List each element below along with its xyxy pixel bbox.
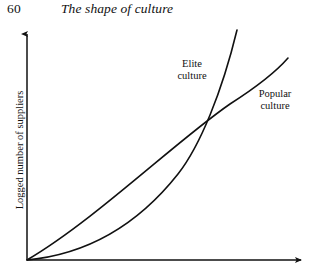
series-label-elite-line-1: Elite [160,58,224,70]
y-axis-label: Logged number of suppliers [14,70,26,230]
running-head-title: The shape of culture [61,1,173,17]
book-page: 60 The shape of culture Logged number of [0,0,309,276]
series-label-elite-culture: Elite culture [160,58,224,81]
page-number: 60 [7,1,21,17]
series-label-popular-line-1: Popular [243,88,307,100]
series-label-popular-culture: Popular culture [243,88,307,111]
chart-plot-area [0,22,309,276]
running-head: 60 The shape of culture [0,0,309,22]
series-label-elite-line-2: culture [160,70,224,82]
figure-chart: Logged number of suppliers Elite culture… [0,22,309,276]
series-label-popular-line-2: culture [243,100,307,112]
